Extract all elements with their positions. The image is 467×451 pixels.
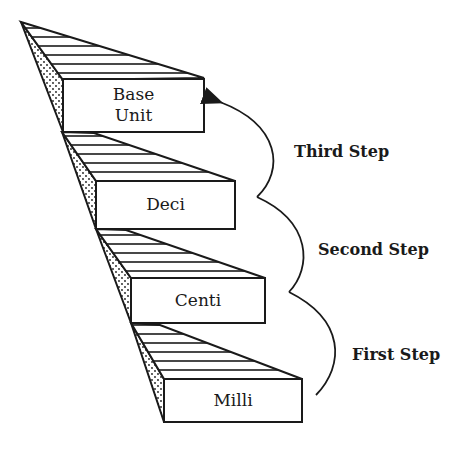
- milli-label: Milli: [164, 390, 302, 411]
- third-step-label: Third Step: [294, 142, 389, 161]
- base-label-line1: Base: [63, 84, 204, 105]
- deci-label: Deci: [96, 194, 235, 215]
- first-step-label: First Step: [352, 345, 440, 364]
- metric-staircase-diagram: Base Unit Deci Centi Milli Third Step Se…: [0, 0, 467, 451]
- base-unit-label: Base Unit: [63, 84, 204, 126]
- second-step-label: Second Step: [318, 240, 429, 259]
- base-label-line2: Unit: [63, 105, 204, 126]
- centi-label: Centi: [131, 290, 265, 311]
- staircase-graphic: [0, 0, 467, 451]
